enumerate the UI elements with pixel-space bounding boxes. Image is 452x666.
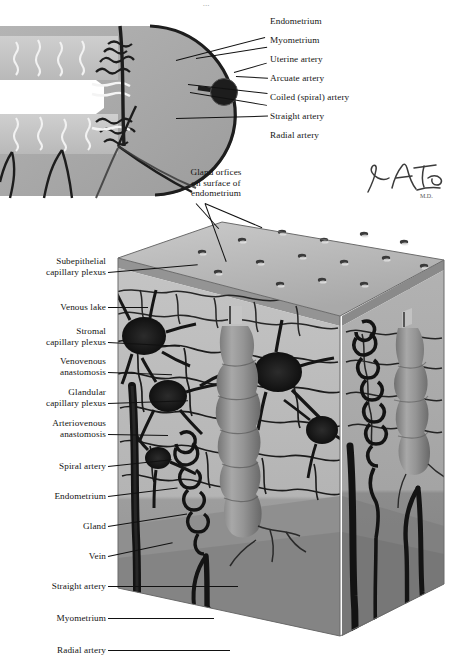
arteriovenous-line2: anastomosis (0, 429, 106, 440)
block-label-radial-artery: Radial artery (0, 645, 106, 656)
glandular-line1: Glandular (0, 387, 106, 398)
inset-label-myometrium: Myometrium (270, 35, 320, 46)
leader-venous-lake (108, 307, 148, 308)
netter-plate: ... (0, 0, 452, 666)
block-label-venovenous: Venovenous anastomosis (0, 356, 106, 377)
block-label-arteriovenous: Arteriovenous anastomosis (0, 418, 106, 439)
gland-orifices-line1: Gland orfices (168, 167, 264, 178)
block-label-subepithelial: Subepithelial capillary plexus (0, 256, 106, 277)
venous-lake-3 (254, 352, 302, 392)
block-label-myometrium: Myometrium (0, 613, 106, 624)
arteriovenous-line1: Arteriovenous (0, 418, 106, 429)
venovenous-line2: anastomosis (0, 367, 106, 378)
inset-label-endometrium: Endometrium (270, 16, 322, 27)
inset-label-straight-artery: Straight artery (270, 111, 324, 122)
venous-lake-1 (122, 317, 166, 355)
block-label-stromal: Stromal capillary plexus (0, 326, 106, 347)
straight-artery-left (206, 556, 208, 642)
arteriovenous-anastomosis-node (145, 447, 171, 469)
stromal-line2: capillary plexus (0, 337, 106, 348)
block-label-vein: Vein (0, 551, 106, 562)
inset-label-arcuate-artery: Arcuate artery (270, 73, 324, 84)
block-label-gland: Gland (0, 521, 106, 532)
inset-label-coiled-artery: Coiled (spiral) artery (270, 92, 349, 103)
uterine-artery-stem (198, 88, 212, 90)
block-label-endometrium: Endometrium (0, 491, 106, 502)
block-label-venous-lake: Venous lake (0, 302, 106, 313)
gland-orifices-label: Gland orfices on surface of endometrium (168, 167, 264, 199)
glandular-line2: capillary plexus (0, 398, 106, 409)
venous-lake-2 (149, 380, 187, 412)
inset-label-radial-artery: Radial artery (270, 130, 319, 141)
block-label-glandular: Glandular capillary plexus (0, 387, 106, 408)
block-drawing (110, 196, 452, 648)
top-cutoff-text: ... (186, 0, 226, 7)
leader-block-straight-artery (108, 586, 238, 587)
uterine-cavity (0, 80, 104, 114)
radial-artery-left (208, 608, 224, 642)
leader-block-radial-artery (108, 650, 230, 651)
venous-lake-4 (306, 416, 338, 444)
stromal-line1: Stromal (0, 326, 106, 337)
block-label-straight-artery: Straight artery (0, 581, 106, 592)
subepithelial-line1: Subepithelial (0, 256, 106, 267)
endometrium-3d-block (110, 196, 452, 648)
block-label-spiral-artery: Spiral artery (0, 461, 106, 472)
inset-label-uterine-artery: Uterine artery (270, 54, 323, 65)
venovenous-line1: Venovenous (0, 356, 106, 367)
subepithelial-line2: capillary plexus (0, 267, 106, 278)
gland-orifices-line3: endometrium (168, 188, 264, 199)
gland-orifices-line2: on surface of (168, 178, 264, 189)
leader-block-myometrium (108, 618, 214, 619)
